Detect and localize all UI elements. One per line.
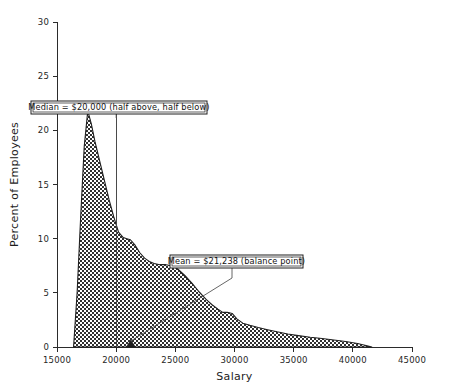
median-annotation: Median = $20,000 (half above, half below…	[28, 101, 209, 114]
y-tick-label: 20	[38, 125, 49, 135]
salary-distribution-chart: 051015202530 150002000025000300003500040…	[0, 0, 474, 391]
x-tick-label: 40000	[339, 355, 367, 365]
mean-annotation: Mean = $21,238 (balance point)	[168, 255, 305, 268]
x-tick-label: 35000	[280, 355, 308, 365]
y-tick-label: 25	[38, 71, 49, 81]
mean-annotation-label: Mean = $21,238 (balance point)	[168, 256, 305, 266]
median-annotation-label: Median = $20,000 (half above, half below…	[28, 102, 209, 112]
y-tick-label: 15	[38, 180, 49, 190]
x-tick-label: 20000	[102, 355, 130, 365]
chart-svg: 051015202530 150002000025000300003500040…	[0, 0, 474, 391]
x-tick-label: 30000	[220, 355, 248, 365]
x-tick-label: 15000	[43, 355, 71, 365]
y-tick-label: 0	[43, 342, 49, 352]
x-axis-title: Salary	[216, 370, 253, 383]
y-tick-label: 10	[38, 234, 49, 244]
y-tick-label: 30	[38, 17, 49, 27]
y-axis-title: Percent of Employees	[8, 122, 21, 247]
x-tick-label: 45000	[398, 355, 426, 365]
y-tick-label: 5	[43, 288, 49, 298]
x-tick-label: 25000	[161, 355, 189, 365]
